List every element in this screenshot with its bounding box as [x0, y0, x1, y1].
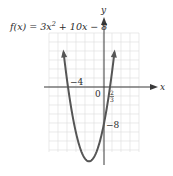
- x-intercept-left-label: −4: [70, 77, 84, 87]
- curve-arrows: [61, 49, 117, 57]
- grid: [49, 33, 139, 152]
- y-axis-label: y: [100, 5, 107, 15]
- quadratic-graph: x y 0 −4 2 3 −8 f(x) = 3x2 + 10x − 8: [0, 0, 173, 176]
- title-rhs: + 10x − 8: [56, 21, 108, 32]
- x-axis-arrow-icon: [150, 84, 158, 90]
- y-intercept-label: −8: [106, 120, 120, 130]
- x-intercept-right-numerator: 2: [110, 89, 114, 96]
- x-intercept-right-denominator: 3: [110, 96, 114, 103]
- function-title: f(x) = 3x2 + 10x − 8: [9, 20, 107, 32]
- origin-label: 0: [95, 89, 101, 99]
- x-axis-label: x: [160, 82, 165, 92]
- title-lhs: f(x) = 3x: [9, 21, 52, 32]
- axes: [44, 17, 158, 165]
- curve-arrow-icon: [61, 49, 67, 57]
